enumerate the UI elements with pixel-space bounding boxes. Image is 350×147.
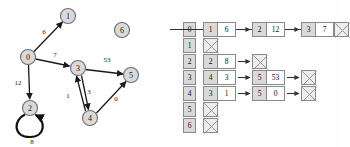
adjacency-null-terminator-r4 — [301, 86, 316, 101]
graph-node-label-2: 2 — [28, 104, 32, 113]
edge-weight-4-3: 1 — [66, 92, 70, 100]
adjacency-node-value: 12 — [267, 22, 285, 37]
graph-edge-weights: 6 7 12 8 3 1 53 0 — [15, 28, 119, 146]
adjacency-node-key: 3 — [301, 22, 316, 37]
adjacency-node-value: 3 — [218, 70, 236, 85]
edge-0-to-1 — [34, 22, 63, 52]
graph-node-label-0: 0 — [26, 53, 30, 62]
adjacency-node-value: 6 — [218, 22, 236, 37]
adjacency-node-r3-c1[interactable]: 5 53 — [252, 70, 285, 85]
graph-node-label-6: 6 — [120, 26, 124, 35]
graph-diagram-panel: 0 1 2 3 4 5 6 6 7 12 8 3 1 53 0 — [0, 0, 170, 147]
adjacency-node-r0-c0[interactable]: 1 6 — [203, 22, 236, 37]
edge-4-to-3 — [77, 76, 86, 111]
adjacency-node-r2-c0[interactable]: 2 8 — [203, 54, 236, 69]
adjacency-null-r5 — [203, 102, 218, 117]
edge-weight-0-1: 6 — [42, 28, 46, 36]
edge-weight-3-4: 3 — [87, 88, 91, 96]
graph-node-label-4: 4 — [88, 114, 92, 123]
adjacency-node-value: 1 — [218, 86, 236, 101]
adjacency-null-terminator-r0 — [334, 22, 349, 37]
edge-2-self-loop — [17, 115, 43, 138]
adjacency-node-key: 4 — [203, 70, 218, 85]
adjacency-null-r1 — [203, 38, 218, 53]
adjacency-node-r0-c1[interactable]: 2 12 — [252, 22, 285, 37]
edge-4-to-5 — [97, 82, 127, 114]
edge-weight-2-2: 8 — [30, 138, 34, 146]
graph-nodes: 0 1 2 3 4 5 6 — [21, 9, 139, 126]
adjacency-node-key: 3 — [203, 86, 218, 101]
adjacency-node-key: 1 — [203, 22, 218, 37]
edge-weight-4-5: 0 — [114, 95, 118, 103]
adjacency-node-r4-c0[interactable]: 3 1 — [203, 86, 236, 101]
adjacency-list-panel: 0 1 2 3 4 5 6 — [170, 0, 341, 147]
adjacency-node-r3-c0[interactable]: 4 3 — [203, 70, 236, 85]
adjacency-node-key: 2 — [252, 22, 267, 37]
graph-node-label-5: 5 — [129, 71, 133, 80]
adjacency-node-key: 5 — [252, 86, 267, 101]
graph-node-label-3: 3 — [76, 64, 80, 73]
adjacency-node-value: 53 — [267, 70, 285, 85]
graph-svg: 0 1 2 3 4 5 6 6 7 12 8 3 1 53 0 — [0, 0, 170, 147]
edge-weight-3-5: 53 — [104, 56, 112, 64]
edge-weight-0-2: 12 — [15, 79, 23, 87]
graph-node-label-1: 1 — [66, 12, 70, 21]
edge-3-to-5 — [86, 70, 124, 75]
adjacency-node-r4-c1[interactable]: 5 0 — [252, 86, 285, 101]
edge-weight-0-3: 7 — [53, 51, 57, 59]
adjacency-node-key: 5 — [252, 70, 267, 85]
graph-edges — [17, 22, 126, 137]
adjacency-node-value: 7 — [316, 22, 334, 37]
adjacency-node-value: 0 — [267, 86, 285, 101]
edge-0-to-3 — [36, 59, 70, 66]
adjacency-null-terminator-r2 — [252, 54, 267, 69]
adjacency-node-key: 2 — [203, 54, 218, 69]
edge-0-to-2 — [29, 65, 30, 100]
adjacency-node-r0-c2[interactable]: 3 7 — [301, 22, 334, 37]
adjacency-null-r6 — [203, 118, 218, 133]
adjacency-null-terminator-r3 — [301, 70, 316, 85]
adjacency-node-value: 8 — [218, 54, 236, 69]
